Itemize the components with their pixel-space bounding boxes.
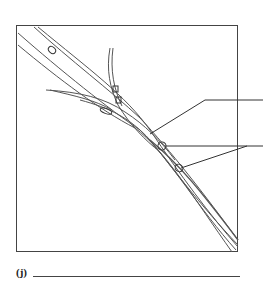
figure-frame <box>17 26 238 252</box>
label-leader-line-1 <box>150 100 263 134</box>
cell-nuclei <box>47 45 184 173</box>
diagram-figure <box>0 0 273 296</box>
answer-line[interactable] <box>33 276 240 277</box>
fibre-strands <box>18 27 238 252</box>
question-label: (j) <box>16 266 27 278</box>
